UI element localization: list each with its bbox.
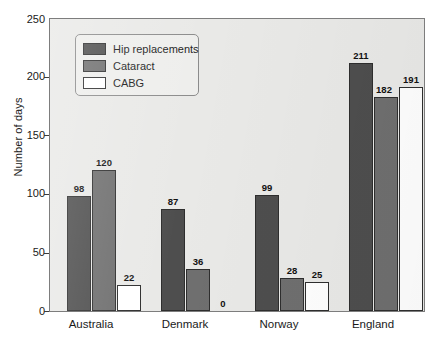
legend-label-hip-replacements: Hip replacements bbox=[113, 44, 199, 55]
bar-england-hip[interactable] bbox=[349, 63, 373, 311]
legend-label-cataract: Cataract bbox=[113, 61, 155, 72]
y-tick-200: 200 bbox=[15, 71, 45, 82]
legend-swatch-cabg bbox=[83, 77, 106, 89]
legend-label-cabg: CABG bbox=[113, 78, 144, 89]
bar-australia-hip[interactable] bbox=[67, 196, 91, 311]
y-axis-tick-labels: 250 200 150 100 50 0 bbox=[13, 0, 45, 340]
bar-label-denmark-cabg: 0 bbox=[206, 299, 240, 309]
bar-norway-hip[interactable] bbox=[255, 195, 279, 311]
y-tick-250: 250 bbox=[15, 14, 45, 25]
y-tick-50: 50 bbox=[15, 247, 45, 258]
y-tick-100: 100 bbox=[15, 188, 45, 199]
bar-norway-cabg[interactable] bbox=[305, 282, 329, 311]
x-tick-denmark: Denmark bbox=[142, 318, 228, 330]
chart-legend: Hip replacements Cataract CABG bbox=[75, 34, 199, 96]
bar-norway-cataract[interactable] bbox=[280, 278, 304, 311]
bar-australia-cabg[interactable] bbox=[117, 285, 141, 311]
bar-label-australia-cataract: 120 bbox=[87, 158, 121, 168]
bar-label-australia-cabg: 22 bbox=[112, 273, 146, 283]
legend-swatch-hip-replacements bbox=[83, 43, 106, 55]
bar-england-cataract[interactable] bbox=[374, 97, 398, 311]
bar-label-australia-hip: 98 bbox=[62, 184, 96, 194]
legend-item-cabg[interactable]: CABG bbox=[83, 75, 191, 91]
y-tick-150: 150 bbox=[15, 130, 45, 141]
legend-item-cataract[interactable]: Cataract bbox=[83, 58, 191, 74]
bar-label-norway-cabg: 25 bbox=[300, 270, 334, 280]
x-tick-australia: Australia bbox=[48, 318, 134, 330]
legend-item-hip-replacements[interactable]: Hip replacements bbox=[83, 41, 191, 57]
bar-england-cabg[interactable] bbox=[399, 87, 423, 311]
bar-label-england-hip: 211 bbox=[344, 51, 378, 61]
bar-label-england-cabg: 191 bbox=[394, 75, 428, 85]
x-tick-england: England bbox=[330, 318, 416, 330]
x-tick-norway: Norway bbox=[236, 318, 322, 330]
bar-label-norway-hip: 99 bbox=[250, 183, 284, 193]
bar-chart-figure: Number of days 250 200 150 100 50 0 98 1… bbox=[0, 0, 446, 340]
bar-label-denmark-hip: 87 bbox=[156, 197, 190, 207]
bar-label-denmark-cataract: 36 bbox=[181, 257, 215, 267]
legend-swatch-cataract bbox=[83, 60, 106, 72]
y-tick-0: 0 bbox=[15, 306, 45, 317]
bar-label-england-cataract: 182 bbox=[367, 85, 401, 95]
plot-area: 98 120 22 87 36 0 99 28 25 211 182 191 bbox=[49, 18, 425, 312]
